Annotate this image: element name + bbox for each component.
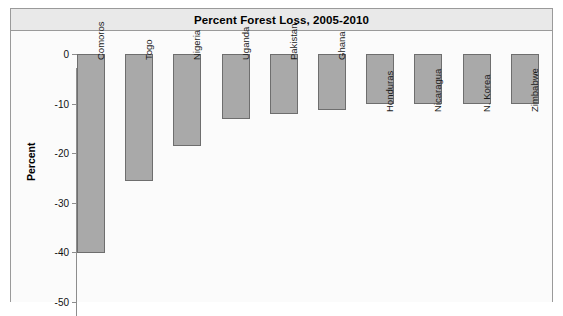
bar-label-uganda: Uganda bbox=[240, 27, 251, 60]
bar-label-comoros: Comoros bbox=[95, 21, 106, 60]
bar-comoros[interactable] bbox=[77, 54, 105, 253]
chart-title-band: Percent Forest Loss, 2005-2010 bbox=[11, 9, 552, 31]
chart-frame: Percent Forest Loss, 2005-2010 Percent 0… bbox=[10, 8, 553, 302]
y-axis-title: Percent bbox=[25, 142, 37, 181]
y-axis-tick-label: -50 bbox=[41, 297, 69, 308]
bar-ghana[interactable] bbox=[318, 54, 346, 110]
bar-label-zimbabwe: Zimbabwe bbox=[529, 68, 540, 112]
bar-pakistan[interactable] bbox=[270, 54, 298, 114]
bar-togo[interactable] bbox=[125, 54, 153, 181]
y-axis-tick-label: -10 bbox=[41, 98, 69, 109]
plot-area: Percent 0-10-20-30-40-50 ComorosTogoNige… bbox=[11, 31, 552, 302]
bar-label-nicaragua: Nicaragua bbox=[432, 69, 443, 112]
bar-nigeria[interactable] bbox=[173, 54, 201, 146]
bar-label-ghana: Ghana bbox=[336, 31, 347, 60]
y-axis-tick-label: -30 bbox=[41, 197, 69, 208]
bar-label-togo: Togo bbox=[143, 39, 154, 60]
chart-title: Percent Forest Loss, 2005-2010 bbox=[194, 14, 369, 26]
bar-label-n-korea: N. Korea bbox=[481, 74, 492, 112]
y-axis-tick bbox=[72, 302, 77, 303]
top-edge-spacer bbox=[0, 0, 563, 6]
y-axis-tick-label: -20 bbox=[41, 148, 69, 159]
bar-label-honduras: Honduras bbox=[384, 71, 395, 112]
bar-label-pakistan: Pakistan bbox=[288, 24, 299, 60]
y-axis-tick-label: -40 bbox=[41, 247, 69, 258]
y-axis-tick-label: 0 bbox=[41, 49, 69, 60]
bar-uganda[interactable] bbox=[222, 54, 250, 119]
bar-label-nigeria: Nigeria bbox=[191, 30, 202, 60]
